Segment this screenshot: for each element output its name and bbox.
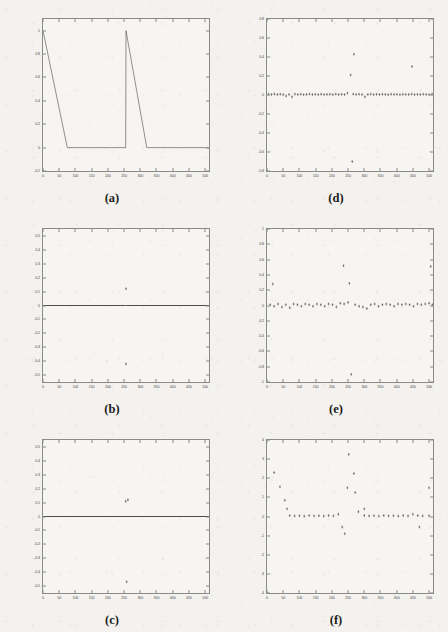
x-tick-mark <box>205 19 206 22</box>
y-tick-label: -0.1 <box>34 317 40 321</box>
x-tick-mark <box>107 379 108 382</box>
x-tick-label: 200 <box>329 596 335 600</box>
data-point-marker <box>364 96 366 99</box>
y-tick-mark <box>430 320 433 321</box>
y-tick-label: -0.4 <box>258 334 264 338</box>
data-point-marker <box>419 93 421 96</box>
y-tick-label: -0.3 <box>34 345 40 349</box>
y-tick-mark <box>43 100 46 101</box>
y-tick-label: -0.4 <box>258 131 264 135</box>
y-tick-label: -0.3 <box>34 556 40 560</box>
data-point-marker <box>291 96 293 99</box>
data-point-marker <box>279 93 281 96</box>
x-tick-mark <box>140 229 141 232</box>
data-point-marker <box>358 93 360 96</box>
y-tick-mark <box>206 319 209 320</box>
x-tick-mark <box>205 229 206 232</box>
y-tick-mark <box>206 333 209 334</box>
x-tick-label: 250 <box>345 596 351 600</box>
y-tick-mark <box>43 291 46 292</box>
y-tick-mark <box>43 235 46 236</box>
data-point-marker <box>308 514 310 517</box>
y-tick-mark <box>206 375 209 376</box>
x-tick-mark <box>364 379 365 382</box>
data-point-marker <box>417 303 419 306</box>
data-point-marker <box>125 363 127 366</box>
y-tick-label: 0.4 <box>35 248 40 252</box>
y-tick-label: -0.2 <box>258 319 264 323</box>
x-tick-mark <box>412 229 413 232</box>
x-tick-label: 500 <box>426 174 432 178</box>
x-tick-mark <box>156 19 157 22</box>
data-point-marker <box>332 93 334 96</box>
x-tick-mark <box>429 229 430 232</box>
x-tick-mark <box>124 229 125 232</box>
data-point-marker <box>422 515 424 518</box>
data-point-marker <box>273 471 275 474</box>
y-tick-mark <box>43 77 46 78</box>
data-point-marker <box>373 514 375 517</box>
y-tick-label: 0 <box>38 146 40 150</box>
data-point-marker <box>281 306 283 309</box>
y-tick-label: 0.6 <box>259 258 264 262</box>
y-tick-mark <box>430 95 433 96</box>
data-point-marker <box>411 65 413 68</box>
x-tick-mark <box>364 19 365 22</box>
data-point-marker <box>309 93 311 96</box>
x-tick-mark <box>156 229 157 232</box>
y-tick-mark <box>267 259 270 260</box>
panel-d: -0.8-0.6-0.4-0.200.20.40.60.805010015020… <box>224 0 448 210</box>
y-tick-mark <box>267 554 270 555</box>
y-tick-mark <box>206 446 209 447</box>
x-tick-mark <box>205 590 206 593</box>
x-tick-label: 100 <box>297 385 303 389</box>
x-tick-label: 200 <box>105 385 111 389</box>
plot-area-a: -0.200.20.40.60.810501001502002503003504… <box>42 18 210 172</box>
y-tick-mark <box>43 347 46 348</box>
x-tick-label: 400 <box>394 385 400 389</box>
data-point-marker <box>430 265 432 268</box>
y-tick-label: 4 <box>262 438 264 442</box>
data-point-marker <box>311 93 313 96</box>
y-tick-mark <box>267 57 270 58</box>
panel-a: -0.200.20.40.60.810501001502002503003504… <box>0 0 224 210</box>
x-tick-mark <box>107 19 108 22</box>
x-tick-mark <box>172 229 173 232</box>
x-tick-mark <box>331 590 332 593</box>
y-tick-mark <box>267 320 270 321</box>
y-tick-mark <box>206 544 209 545</box>
y-tick-mark <box>267 573 270 574</box>
x-tick-mark <box>107 229 108 232</box>
data-point-marker <box>353 472 355 475</box>
data-point-marker <box>399 93 401 96</box>
plot-svg-c <box>43 440 209 593</box>
x-tick-mark <box>315 168 316 171</box>
panel-b: -0.5-0.4-0.3-0.2-0.100.10.20.30.40.50501… <box>0 210 224 421</box>
y-tick-label: 0 <box>262 515 264 519</box>
plot-area-d: -0.8-0.6-0.4-0.200.20.40.60.805010015020… <box>266 18 434 172</box>
y-tick-label: -0.2 <box>258 112 264 116</box>
x-tick-mark <box>267 168 268 171</box>
data-point-marker <box>393 514 395 517</box>
data-point-marker <box>344 93 346 96</box>
data-point-marker <box>314 93 316 96</box>
x-tick-mark <box>205 440 206 443</box>
x-tick-label: 50 <box>281 174 285 178</box>
x-tick-mark <box>91 440 92 443</box>
data-point-marker <box>378 515 380 518</box>
x-tick-label: 350 <box>378 174 384 178</box>
x-tick-mark <box>315 229 316 232</box>
plot-area-e: -1-0.8-0.6-0.4-0.200.20.40.60.8105010015… <box>266 228 434 383</box>
y-tick-label: 1 <box>262 495 264 499</box>
data-point-marker <box>316 303 318 306</box>
data-point-marker <box>299 514 301 517</box>
data-point-marker <box>405 93 407 96</box>
y-tick-label: 0.2 <box>35 487 40 491</box>
y-tick-label: 0.8 <box>35 52 40 56</box>
x-tick-mark <box>156 168 157 171</box>
y-tick-mark <box>430 133 433 134</box>
x-tick-label: 0 <box>42 596 44 600</box>
y-tick-label: -0.5 <box>34 584 40 588</box>
y-tick-label: -3 <box>261 572 264 576</box>
x-tick-label: 300 <box>137 385 143 389</box>
